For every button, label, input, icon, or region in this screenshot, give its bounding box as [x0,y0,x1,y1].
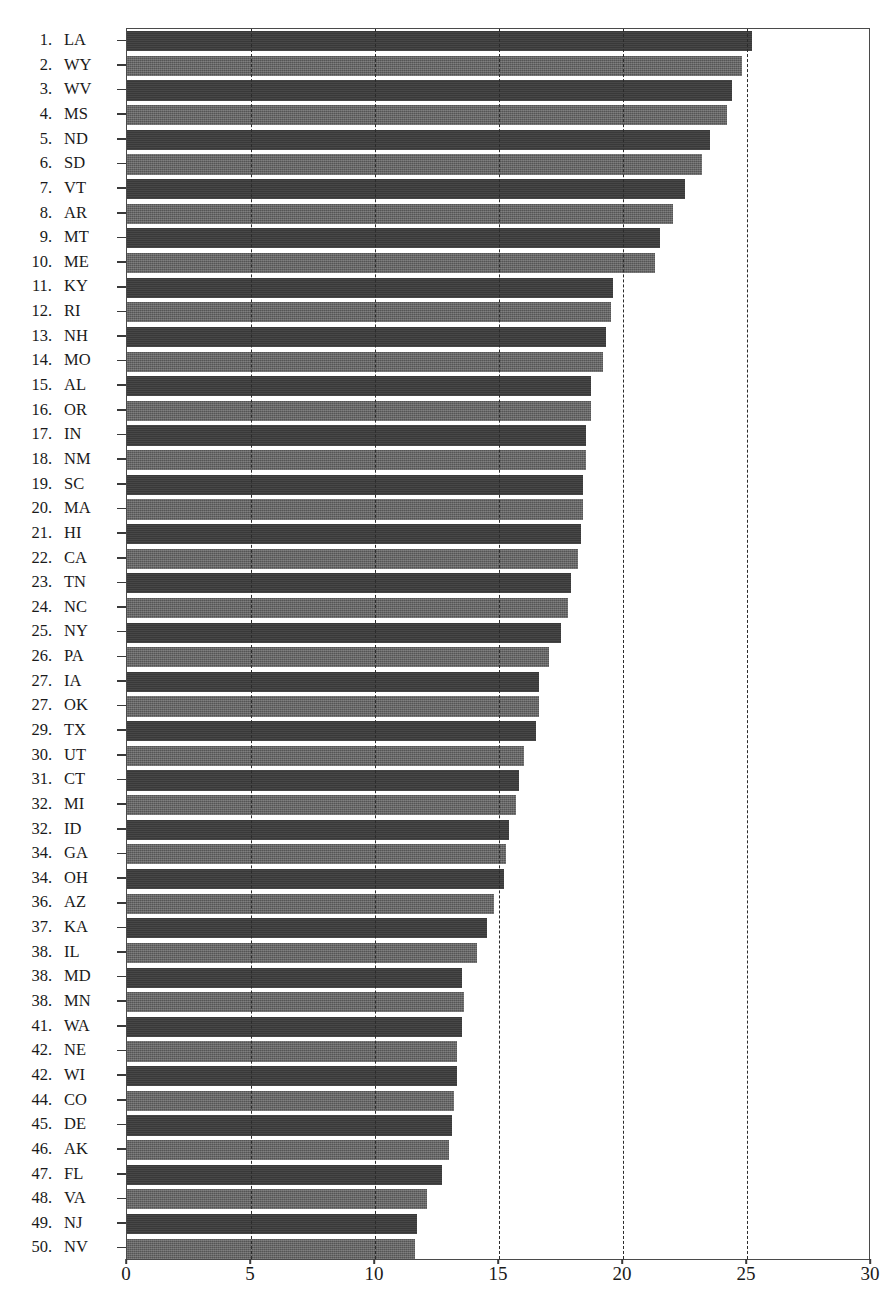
bar-row [127,349,869,374]
bar-va [127,1189,427,1209]
y-axis-tick [117,656,126,658]
plot-area [126,28,870,1260]
bar-row [127,300,869,325]
bar-az [127,894,494,914]
rank-number: 12. [0,303,52,320]
state-abbreviation: ND [52,131,120,148]
y-axis-label-id: 32.ID [0,816,126,841]
rank-number: 49. [0,1215,52,1232]
state-abbreviation: AR [52,205,120,222]
state-abbreviation: NE [52,1042,120,1059]
bar-il [127,943,477,963]
y-axis-tick [117,360,126,362]
state-abbreviation: OK [52,697,120,714]
bar-row [127,1089,869,1114]
bar-ga [127,844,506,864]
state-abbreviation: CA [52,550,120,567]
y-axis-tick [117,606,126,608]
bar-row [127,990,869,1015]
y-axis-tick [117,1198,126,1200]
rank-number: 45. [0,1116,52,1133]
state-abbreviation: IL [52,944,120,961]
bar-mn [127,992,464,1012]
bar-row [127,374,869,399]
y-axis-tick [117,384,126,386]
y-axis-tick [117,631,126,633]
bar-mt [127,228,660,248]
bar-row [127,867,869,892]
bar-row [127,1138,869,1163]
bar-sd [127,154,702,174]
y-axis-label-nv: 50.NV [0,1235,126,1260]
gridline-10 [375,29,376,1259]
y-axis-tick [117,409,126,411]
bar-ne [127,1041,457,1061]
y-axis-label-wa: 41.WA [0,1014,126,1039]
bar-row [127,226,869,251]
bar-row [127,1236,869,1261]
bar-row [127,645,869,670]
y-axis-label-ny: 25.NY [0,619,126,644]
bar-ct [127,770,519,790]
bar-me [127,253,655,273]
bar-nc [127,598,568,618]
state-abbreviation: WI [52,1067,120,1084]
rank-number: 9. [0,229,52,246]
bar-row [127,522,869,547]
y-axis-label-ms: 4.MS [0,102,126,127]
bar-md [127,968,462,988]
y-axis-tick [117,729,126,731]
y-axis-tick [117,113,126,115]
bar-row [127,596,869,621]
y-axis-label-oh: 34.OH [0,866,126,891]
bar-ar [127,204,673,224]
rank-number: 13. [0,328,52,345]
y-axis-tick [117,828,126,830]
rank-number: 36. [0,894,52,911]
bar-ut [127,746,524,766]
bar-wv [127,80,732,100]
x-axis-label-20: 20 [613,1264,632,1283]
bar-or [127,401,591,421]
y-axis-label-hi: 21.HI [0,521,126,546]
rank-number: 22. [0,550,52,567]
state-abbreviation: AK [52,1141,120,1158]
state-abbreviation: NC [52,599,120,616]
y-axis-label-de: 45.DE [0,1112,126,1137]
gridline-20 [623,29,624,1259]
y-axis-tick [117,951,126,953]
y-axis-label-wi: 42.WI [0,1063,126,1088]
bar-oh [127,869,504,889]
state-abbreviation: MN [52,993,120,1010]
y-axis-label-fl: 47.FL [0,1161,126,1186]
state-abbreviation: CT [52,771,120,788]
bar-row [127,251,869,276]
y-axis-tick [117,261,126,263]
y-axis-label-la: 1.LA [0,28,126,53]
state-abbreviation: MI [52,796,120,813]
y-axis-label-il: 38.IL [0,940,126,965]
bar-row [127,1187,869,1212]
bar-tx [127,721,536,741]
y-axis-tick [117,335,126,337]
y-axis-label-co: 44.CO [0,1088,126,1113]
bar-row [127,201,869,226]
y-axis-label-al: 15.AL [0,373,126,398]
bar-chart: 1.LA2.WY3.WV4.MS5.ND6.SD7.VT8.AR9.MT10.M… [0,0,896,1310]
y-axis-label-in: 17.IN [0,422,126,447]
y-axis-tick [117,680,126,682]
bar-co [127,1091,454,1111]
y-axis-label-ut: 30.UT [0,743,126,768]
bar-row [127,473,869,498]
rank-number: 50. [0,1239,52,1256]
rank-number: 15. [0,377,52,394]
state-abbreviation: MT [52,229,120,246]
bar-ma [127,499,583,519]
state-abbreviation: MA [52,500,120,517]
rank-number: 17. [0,426,52,443]
bar-row [127,965,869,990]
rank-number: 38. [0,968,52,985]
y-axis-label-tn: 23.TN [0,570,126,595]
y-axis-tick [117,237,126,239]
bar-row [127,546,869,571]
